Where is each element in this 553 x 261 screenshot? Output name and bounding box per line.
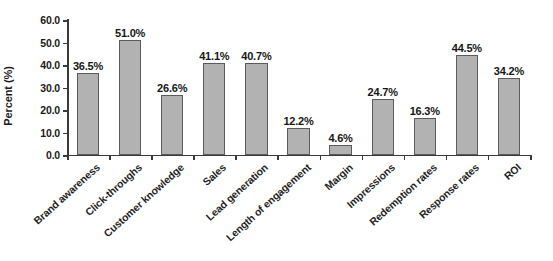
bar-value-label: 44.5% [452,42,482,54]
y-axis-tick [63,65,67,67]
bar[interactable]: 44.5% [456,55,478,155]
x-axis-tick [151,155,153,160]
bar[interactable]: 34.2% [498,78,520,155]
y-axis-tick [63,110,67,112]
bar[interactable]: 24.7% [372,99,394,155]
bar[interactable]: 40.7% [245,63,267,155]
y-axis-tick-label: 40.0 [40,59,60,71]
x-axis-category-label: Length of engagement [223,161,312,243]
x-axis-category-label: Customer knowledge [101,161,186,239]
y-axis-tick [63,88,67,90]
bar-value-label: 4.6% [328,132,352,144]
bar[interactable]: 4.6% [329,145,351,155]
x-axis-tick [109,155,111,160]
x-axis-tick [67,155,69,160]
bar-value-label: 36.5% [73,60,103,72]
bar[interactable]: 36.5% [77,73,99,155]
y-axis-title: Percent (%) [2,44,14,148]
y-axis-tick [63,20,67,22]
bar-value-label: 16.3% [410,105,440,117]
x-axis-tick [235,155,237,160]
plot-area: 0.010.020.030.040.050.060.036.5%51.0%26.… [67,20,530,155]
bar-chart: Percent (%) 0.010.020.030.040.050.060.03… [0,0,553,261]
bar-value-label: 26.6% [157,82,187,94]
x-axis-tick [530,155,532,160]
bar[interactable]: 51.0% [119,40,141,155]
x-axis-tick [320,155,322,160]
bar-value-label: 12.2% [283,115,313,127]
bar-value-label: 24.7% [368,86,398,98]
bar-value-label: 41.1% [199,50,229,62]
x-axis-tick [362,155,364,160]
y-axis-tick-label: 50.0 [40,37,60,49]
bar-value-label: 51.0% [115,27,145,39]
y-axis-tick-label: 20.0 [40,104,60,116]
x-axis-tick [193,155,195,160]
bar-value-label: 40.7% [241,50,271,62]
x-axis-category-label: ROI [501,161,523,182]
y-axis-tick-label: 60.0 [40,14,60,26]
y-axis-tick [63,133,67,135]
bar-value-label: 34.2% [494,65,524,77]
y-axis-tick-label: 10.0 [40,127,60,139]
x-axis-category-label: Margin [322,161,355,192]
x-axis-tick [404,155,406,160]
x-axis-tick [446,155,448,160]
bar[interactable]: 41.1% [203,63,225,155]
y-axis-tick [63,43,67,45]
y-axis-tick-label: 30.0 [40,82,60,94]
bar[interactable]: 16.3% [414,118,436,155]
x-axis-tick [277,155,279,160]
x-axis-tick [488,155,490,160]
y-axis-tick-label: 0.0 [46,149,60,161]
bar[interactable]: 12.2% [287,128,309,155]
bar[interactable]: 26.6% [161,95,183,155]
x-axis-category-label: Sales [200,161,228,188]
